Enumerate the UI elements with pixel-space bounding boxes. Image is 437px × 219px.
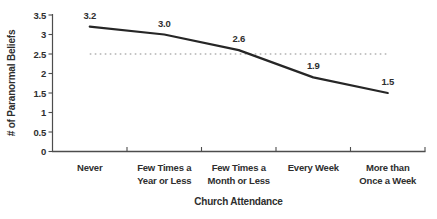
y-tick-label: 3 [20, 29, 46, 40]
data-point-label: 1.9 [293, 60, 333, 71]
y-tick-label: 2 [20, 68, 46, 79]
category-label: More than Once a Week [343, 162, 433, 187]
data-point-label: 2.6 [219, 33, 259, 44]
x-axis-title: Church Attendance [52, 196, 425, 208]
y-axis-title: # of Paranormal Beliefs [6, 13, 18, 153]
data-point-label: 3.0 [144, 18, 184, 29]
y-tick-label: 0.5 [20, 127, 46, 138]
y-tick-label: 1 [20, 107, 46, 118]
y-tick-label: 2.5 [20, 49, 46, 60]
paranormal-beliefs-line-chart: 00.511.522.533.5 3.23.02.61.91.5 NeverFe… [0, 0, 437, 219]
data-point-label: 1.5 [368, 76, 408, 87]
data-point-label: 3.2 [70, 10, 110, 21]
y-tick-label: 1.5 [20, 88, 46, 99]
y-tick-label: 0 [20, 146, 46, 157]
y-tick-label: 3.5 [20, 10, 46, 21]
